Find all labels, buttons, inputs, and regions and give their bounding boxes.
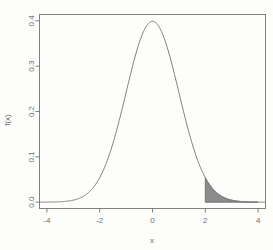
normal-density-plot: 0.00.10.20.30.4 -4-2024 x f(x)	[0, 0, 273, 250]
x-tick-label: -2	[96, 216, 104, 225]
x-tick-label: -4	[43, 216, 51, 225]
x-tick-label: 4	[256, 216, 261, 225]
plot-canvas: 0.00.10.20.30.4 -4-2024 x f(x)	[0, 0, 273, 250]
y-tick-label: 0.1	[27, 151, 36, 163]
y-tick-label: 0.3	[27, 60, 36, 72]
x-tick-label: 0	[150, 216, 155, 225]
y-tick-label: 0.2	[27, 105, 36, 117]
plot-background	[0, 0, 273, 250]
y-axis-title: f(x)	[3, 114, 12, 126]
x-axis-title: x	[150, 236, 154, 245]
y-tick-label: 0.4	[27, 15, 36, 27]
x-tick-label: 2	[203, 216, 208, 225]
y-tick-label: 0.0	[27, 196, 36, 208]
